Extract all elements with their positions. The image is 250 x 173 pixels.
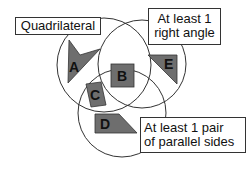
svg-text:E: E (164, 56, 173, 72)
label-parallel-sides-line1: At least 1 pair (144, 121, 242, 135)
svg-text:C: C (90, 87, 100, 103)
svg-text:D: D (100, 116, 110, 132)
label-right-angle: At least 1 right angle (148, 8, 221, 45)
shape-d: D (95, 114, 137, 133)
label-right-angle-line2: right angle (152, 26, 217, 40)
shape-c: C (86, 82, 106, 107)
label-right-angle-line1: At least 1 (152, 12, 217, 26)
shape-e: E (148, 55, 177, 84)
shape-b: B (111, 64, 134, 87)
svg-text:B: B (117, 68, 127, 84)
shape-a: A (68, 40, 100, 83)
label-parallel-sides-line2: of parallel sides (144, 135, 242, 149)
label-quadrilateral-text: Quadrilateral (21, 18, 95, 33)
label-quadrilateral: Quadrilateral (15, 17, 101, 35)
label-parallel-sides: At least 1 pair of parallel sides (140, 117, 246, 153)
svg-text:A: A (69, 59, 79, 75)
